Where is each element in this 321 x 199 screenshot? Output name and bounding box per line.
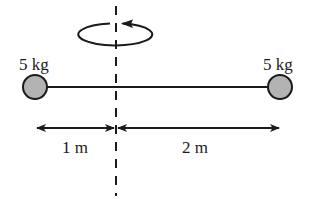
right-mass <box>268 75 292 99</box>
distance-label-left: 1 m <box>62 138 88 157</box>
left-mass <box>23 75 47 99</box>
left-mass-label: 5 kg <box>19 55 49 74</box>
rotating-dumbbell-diagram: 5 kg 5 kg 1 m 2 m <box>0 0 321 199</box>
distance-label-right: 2 m <box>182 138 208 157</box>
right-mass-label: 5 kg <box>263 55 293 74</box>
